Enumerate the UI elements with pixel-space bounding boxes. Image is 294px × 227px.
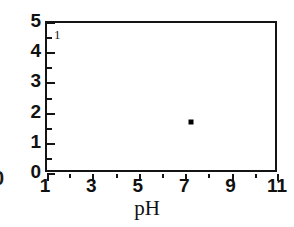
y-axis-major-tick [47,82,55,84]
y-axis-major-tick [47,113,55,115]
y-axis-tick-label: 4 [30,41,41,60]
y-axis-major-tick [47,143,55,145]
y-axis-minor-tick [47,37,52,39]
y-axis-minor-tick [47,67,52,69]
y-axis-tick-label: 1 [30,132,41,151]
x-axis-tick-label: 3 [86,176,97,195]
x-axis-minor-tick [116,174,118,178]
y-axis-tick-label: 5 [30,11,41,30]
panel-label: 1 [54,28,61,41]
y-axis-minor-tick [47,128,52,130]
x-axis-tick-label: 7 [179,176,190,195]
x-axis-minor-tick [255,174,257,178]
y-axis-major-tick [47,22,55,24]
chart-figure: 0 1 012345 1357911 pH [0,0,294,227]
plot-area: 1 [47,23,275,170]
x-axis-tick-label: 5 [133,176,144,195]
data-point-marker [188,120,193,125]
x-axis-minor-tick [208,174,210,178]
y-axis-tick-label: 3 [30,71,41,90]
x-axis-tick-label: 11 [267,176,287,195]
x-axis-tick-label: 9 [225,176,236,195]
y-axis-minor-tick [47,158,52,160]
plot-frame: 1 [45,21,277,172]
y-axis-major-tick [47,52,55,54]
x-axis-minor-tick [69,174,71,178]
y-axis-minor-tick [47,98,52,100]
x-axis-minor-tick [162,174,164,178]
x-axis-tick-label: 1 [40,176,51,195]
clipped-neighbor-digit: 0 [0,168,4,188]
x-axis-title: pH [0,198,294,219]
y-axis-tick-label: 2 [30,102,41,121]
